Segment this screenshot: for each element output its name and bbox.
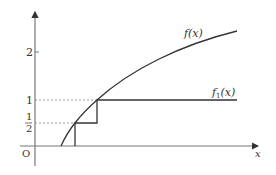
y-tick-label-half-num: 1 — [26, 111, 32, 122]
f1-label-arg: (x) — [221, 86, 236, 99]
curve-f — [61, 31, 237, 146]
y-tick-label-1: 1 — [26, 94, 33, 107]
x-axis-label: x — [255, 148, 261, 159]
curve-f1-label: f1(x) — [211, 86, 235, 100]
y-tick-label-half-den: 2 — [26, 123, 32, 134]
origin-label: O — [22, 148, 30, 159]
curve-f1-step — [75, 100, 237, 146]
y-tick-label-2: 2 — [26, 46, 33, 59]
function-diagram: 2 1 1 2 O x f(x) f1(x) — [0, 0, 276, 175]
curve-f-label: f(x) — [183, 27, 203, 40]
